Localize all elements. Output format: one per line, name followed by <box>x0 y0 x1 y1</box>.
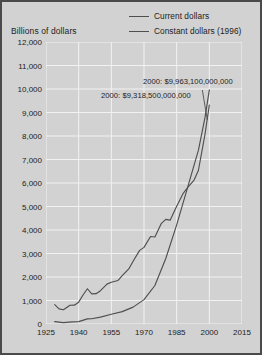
y-axis-tick-label: 2,000 <box>22 273 42 282</box>
annotation-constant-dollars: 2000: $9,318,500,000,000 <box>101 91 191 100</box>
y-axis-tick-label: 5,000 <box>22 202 42 211</box>
x-axis-tick-label: 2000 <box>200 328 218 337</box>
legend-label-constant-dollars: Constant dollars (1996) <box>154 26 241 36</box>
y-axis-tick-label: 12,000 <box>18 38 42 47</box>
x-axis-tick-label: 1940 <box>70 328 88 337</box>
y-axis-tick-label: 10,000 <box>18 85 42 94</box>
legend-item-constant-dollars: Constant dollars (1996) <box>129 26 241 36</box>
legend-line-icon <box>129 31 149 32</box>
x-axis-tick-label: 2015 <box>233 328 251 337</box>
x-axis-tick-label: 1985 <box>168 328 186 337</box>
y-axis-tick-label: 11,000 <box>18 61 42 70</box>
legend-line-icon <box>129 16 149 17</box>
y-axis-tick-label: 4,000 <box>22 226 42 235</box>
legend-item-current-dollars: Current dollars <box>129 11 241 21</box>
y-axis-tick-label: 9,000 <box>22 108 42 117</box>
y-axis-tick-label: 7,000 <box>22 155 42 164</box>
y-axis-tick-labels: 01,0002,0003,0004,0005,0006,0007,0008,00… <box>2 42 42 324</box>
x-axis-tick-labels: 1925194019551970198520002015 <box>46 328 242 344</box>
y-axis-tick-label: 6,000 <box>22 179 42 188</box>
x-axis-tick-label: 1925 <box>37 328 55 337</box>
y-axis-tick-label: 8,000 <box>22 132 42 141</box>
x-axis-tick-label: 1970 <box>135 328 153 337</box>
legend-label-current-dollars: Current dollars <box>154 11 209 21</box>
annotation-current-dollars: 2000: $9,963,100,000,000 <box>143 77 233 86</box>
chart-legend: Current dollars Constant dollars (1996) <box>129 11 241 36</box>
gdp-line-chart: Billions of dollars Current dollars Cons… <box>0 0 262 355</box>
x-axis-tick-label: 1955 <box>102 328 120 337</box>
y-axis-tick-label: 3,000 <box>22 249 42 258</box>
y-axis-title: Billions of dollars <box>11 26 77 36</box>
y-axis-tick-label: 1,000 <box>22 296 42 305</box>
